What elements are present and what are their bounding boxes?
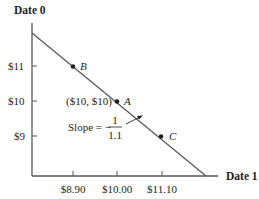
y-tick-label: $11 xyxy=(8,60,24,72)
point-a xyxy=(115,99,120,104)
slope-numerator: 1 xyxy=(112,114,118,126)
x-tick-label: $11.10 xyxy=(147,183,177,195)
point-c xyxy=(159,134,164,139)
arrow-head-icon xyxy=(137,116,143,120)
chart-canvas: Date 0 Date 1 $11 $10 $9 $8.90 $10.00 $1… xyxy=(0,0,259,199)
budget-line xyxy=(32,33,206,176)
y-tick-label: $10 xyxy=(8,95,25,107)
x-axis-label: Date 1 xyxy=(226,170,258,182)
point-a-label: A xyxy=(123,95,131,107)
point-b-label: B xyxy=(80,60,87,72)
y-tick-label: $9 xyxy=(14,130,26,142)
point-a-coords: ($10, $10) xyxy=(66,95,112,108)
point-c-label: C xyxy=(169,130,177,142)
slope-denominator: 1.1 xyxy=(108,129,122,141)
slope-prefix: Slope = − xyxy=(68,121,111,133)
x-tick-label: $10.00 xyxy=(102,183,133,195)
point-b xyxy=(71,64,76,69)
x-tick-label: $8.90 xyxy=(61,183,86,195)
y-axis-label: Date 0 xyxy=(14,4,46,16)
